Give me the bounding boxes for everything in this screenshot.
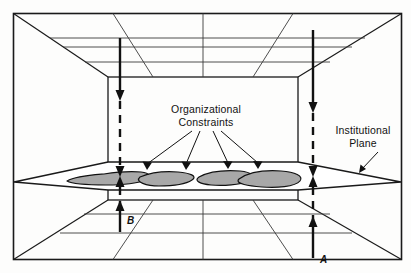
axis-label-a: A bbox=[319, 254, 327, 265]
organizational-constraints-label-line2: Constraints bbox=[179, 116, 234, 128]
perspective-box-diagram: Organizational Constraints Institutional… bbox=[0, 0, 411, 273]
figure-root: Organizational Constraints Institutional… bbox=[0, 0, 411, 273]
axis-label-b: B bbox=[127, 215, 134, 226]
institutional-plane-label-line1: Institutional bbox=[335, 124, 390, 136]
institutional-plane-label-line2: Plane bbox=[349, 137, 377, 149]
organizational-constraints-label-line1: Organizational bbox=[171, 103, 241, 115]
